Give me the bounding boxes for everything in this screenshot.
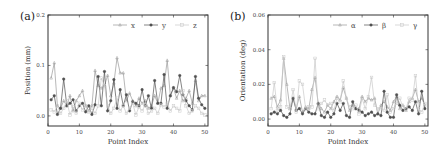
data-point-marker <box>289 113 292 116</box>
data-point-marker <box>398 104 401 107</box>
data-point-marker <box>345 114 348 117</box>
y-tick-label: 0.2 <box>36 12 45 18</box>
data-point-marker <box>94 104 97 107</box>
x-tick-label: 10 <box>76 129 83 135</box>
x-axis-label: Point Index <box>328 138 368 146</box>
data-point-marker <box>386 111 389 114</box>
data-point-marker <box>282 114 285 117</box>
data-point-marker <box>311 113 314 116</box>
data-point-marker <box>364 114 367 117</box>
plot-frame <box>268 15 428 126</box>
data-point-marker <box>333 113 336 116</box>
data-point-marker <box>200 104 203 107</box>
y-tick-label: 0.02 <box>253 81 265 87</box>
figure: (a)010203040500.00.10.2Point IndexPositi… <box>0 0 445 156</box>
data-point-marker <box>53 94 56 97</box>
x-tick-label: 20 <box>327 129 334 135</box>
x-tick-label: 0 <box>266 129 270 135</box>
data-point-marker <box>367 113 370 116</box>
data-point-marker <box>339 109 342 112</box>
data-point-marker <box>286 116 289 119</box>
x-tick-label: 30 <box>139 129 146 135</box>
series-third <box>270 55 426 115</box>
panel-a-position-chart: (a)010203040500.00.10.2Point IndexPositi… <box>20 10 209 146</box>
y-tick-label: 0.04 <box>253 47 266 53</box>
data-point-marker <box>56 113 59 116</box>
data-point-marker <box>175 90 178 93</box>
data-point-marker <box>178 74 181 77</box>
legend-label: z <box>193 22 197 30</box>
data-point-marker <box>100 105 103 108</box>
data-point-marker <box>380 114 383 117</box>
legend-label: β <box>382 22 386 30</box>
figure-canvas: (a)010203040500.00.10.2Point IndexPositi… <box>0 0 445 156</box>
legend-marker <box>150 24 153 27</box>
panel-label: (a) <box>20 10 35 23</box>
data-point-marker <box>389 116 392 119</box>
data-point-marker <box>408 106 411 109</box>
data-point-marker <box>59 107 62 110</box>
data-point-marker <box>392 116 395 119</box>
data-point-marker <box>270 113 273 116</box>
data-point-marker <box>194 75 197 78</box>
data-point-marker <box>276 113 279 116</box>
x-tick-label: 10 <box>296 129 303 135</box>
x-tick-label: 50 <box>421 129 428 135</box>
data-point-marker <box>87 105 90 108</box>
data-point-marker <box>314 113 317 116</box>
legend-label: γ <box>413 22 417 30</box>
data-point-marker <box>370 111 373 114</box>
data-point-marker <box>72 98 75 101</box>
data-point-marker <box>420 90 423 93</box>
data-point-marker <box>106 110 109 113</box>
data-point-marker <box>135 102 138 105</box>
data-point-marker <box>361 111 364 114</box>
panel-b-orientation-chart: (b)010203040500.000.020.040.06Point Inde… <box>230 10 429 146</box>
x-tick-label: 30 <box>359 129 366 135</box>
data-point-marker <box>69 102 72 105</box>
legend-marker <box>370 24 373 27</box>
data-point-marker <box>424 107 427 110</box>
y-tick-label: 0.06 <box>253 12 266 18</box>
data-point-marker <box>188 105 191 108</box>
x-tick-label: 40 <box>170 129 177 135</box>
data-point-marker <box>307 111 310 114</box>
data-point-marker <box>141 88 144 91</box>
data-point-marker <box>157 102 160 105</box>
data-point-marker <box>411 109 414 112</box>
data-point-marker <box>351 100 354 103</box>
data-point-marker <box>326 111 329 114</box>
data-point-marker <box>298 107 301 110</box>
data-point-marker <box>273 111 276 114</box>
data-point-marker <box>166 107 169 110</box>
y-axis-label: Position (mm) <box>24 46 32 95</box>
y-tick-label: 0.0 <box>36 113 45 119</box>
data-point-marker <box>125 93 128 96</box>
data-point-marker <box>348 116 351 119</box>
data-point-marker <box>402 109 405 112</box>
data-point-marker <box>395 93 398 96</box>
data-point-marker <box>84 111 87 114</box>
data-point-marker <box>204 107 207 110</box>
data-point-marker <box>119 88 122 91</box>
data-point-marker <box>172 86 175 89</box>
legend-label: x <box>131 22 135 30</box>
legend: αβγ <box>333 22 417 30</box>
data-point-marker <box>113 78 116 81</box>
x-tick-label: 40 <box>390 129 397 135</box>
data-point-marker <box>373 114 376 117</box>
data-point-marker <box>163 73 166 76</box>
legend-label: y <box>161 22 166 30</box>
data-point-marker <box>323 116 326 119</box>
x-tick-label: 50 <box>201 129 208 135</box>
data-point-marker <box>417 113 420 116</box>
x-tick-label: 0 <box>46 129 50 135</box>
y-axis-label: Orientation (deg) <box>239 39 247 101</box>
y-tick-label: 0.00 <box>253 116 266 122</box>
data-point-marker <box>197 97 200 100</box>
data-point-marker <box>109 99 112 102</box>
data-point-marker <box>97 75 100 78</box>
legend-label: α <box>351 22 356 30</box>
data-point-marker <box>147 94 150 97</box>
data-point-marker <box>103 70 106 73</box>
